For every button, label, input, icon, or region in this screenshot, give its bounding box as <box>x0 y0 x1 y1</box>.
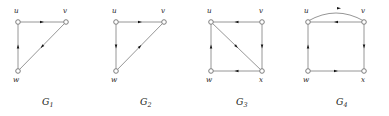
caption-subscript: 1 <box>50 101 54 109</box>
vertex-label-x: x <box>259 75 263 84</box>
vertex-v <box>362 20 367 25</box>
graph-canvas: uvwuvwuvwxuvwxG1G2G3G4 <box>0 0 389 116</box>
arrowhead-up <box>210 45 213 49</box>
graph-g1: uvw <box>13 6 68 84</box>
edge-u-to-w <box>115 24 118 68</box>
arrowhead-down <box>115 45 118 49</box>
vertex-label-u: u <box>14 6 19 15</box>
caption-subscript: 3 <box>244 101 248 109</box>
vertex-label-v: v <box>259 6 263 15</box>
arrowhead-right <box>337 7 341 10</box>
edge-v-to-x <box>261 24 264 68</box>
edge-v-to-x <box>363 24 366 68</box>
vertex-v <box>162 20 167 25</box>
arrowhead-left <box>235 21 239 24</box>
arrowhead-down <box>261 45 264 49</box>
caption-g1: G1 <box>42 96 54 109</box>
vertex-label-w: w <box>303 75 309 84</box>
vertex-u <box>306 20 311 25</box>
arrowhead-up <box>307 45 310 49</box>
edge-w-to-v <box>118 24 163 70</box>
edge-w-to-u <box>210 24 213 68</box>
arrowhead-right <box>334 70 338 73</box>
vertex-label-u: u <box>304 6 309 15</box>
edge-u-to-v <box>20 21 63 24</box>
caption-g3: G3 <box>236 96 248 109</box>
vertex-x <box>260 69 265 74</box>
vertex-label-v: v <box>361 6 365 15</box>
edge-w-to-u <box>307 24 310 68</box>
arrowhead-right <box>138 21 142 24</box>
vertex-label-x: x <box>361 75 365 84</box>
vertex-v <box>64 20 69 25</box>
vertex-label-w: w <box>13 75 19 84</box>
graph-g4: uvwx <box>303 6 366 84</box>
graph-g2: uvw <box>111 6 166 84</box>
edge-u-to-v <box>118 21 161 24</box>
arrowhead-down <box>363 45 366 49</box>
arrowhead-up <box>17 45 20 49</box>
vertex-w <box>16 69 21 74</box>
arrowhead-right <box>40 21 44 24</box>
vertex-label-w: w <box>206 75 212 84</box>
vertex-u <box>114 20 119 25</box>
edge-w-to-u <box>17 24 20 68</box>
edge-path <box>308 13 364 21</box>
arrowhead-left <box>235 70 239 73</box>
vertex-w <box>306 69 311 74</box>
edge-v-to-u <box>310 21 361 24</box>
edge-u-to-x <box>213 24 261 70</box>
edge-v-to-w <box>20 24 65 70</box>
edge-u-to-v <box>308 7 364 21</box>
caption-subscript: 2 <box>147 101 152 109</box>
vertex-label-u: u <box>112 6 117 15</box>
graph-g3: uvwx <box>206 6 264 84</box>
vertex-label-w: w <box>111 75 117 84</box>
vertex-label-v: v <box>161 6 165 15</box>
vertex-label-u: u <box>207 6 212 15</box>
edge-w-to-x <box>310 70 361 73</box>
caption-subscript: 4 <box>343 101 348 109</box>
caption-g2: G2 <box>140 96 152 109</box>
vertex-label-v: v <box>63 6 67 15</box>
edge-v-to-u <box>213 21 259 24</box>
vertex-u <box>16 20 21 25</box>
arrowhead-left <box>334 21 338 24</box>
vertex-w <box>114 69 119 74</box>
vertex-w <box>209 69 214 74</box>
directed-graphs-figure: uvwuvwuvwxuvwxG1G2G3G4 <box>0 0 389 116</box>
vertex-u <box>209 20 214 25</box>
vertex-x <box>362 69 367 74</box>
edge-x-to-w <box>213 70 259 73</box>
caption-g4: G4 <box>336 96 348 109</box>
vertex-v <box>260 20 265 25</box>
